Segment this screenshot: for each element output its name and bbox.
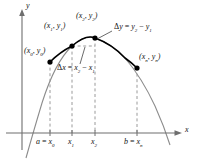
x-axis-label: x xyxy=(185,126,189,134)
point-label-p0: (x0, y0) xyxy=(24,47,45,58)
point-label-p1: (x1, y1) xyxy=(44,22,65,33)
delta-y-annotation: Δy = y2 − y1 xyxy=(114,23,152,34)
point-label-p2: (x2, y2) xyxy=(76,12,97,23)
leader-delta-y xyxy=(97,31,112,39)
x-axis-arrow xyxy=(175,130,183,136)
x-tick-label-x2: x2 xyxy=(91,138,97,149)
x-tick-label-a: a = x0 xyxy=(36,138,55,149)
diagram-canvas xyxy=(0,0,197,160)
data-point-p1 xyxy=(69,43,74,48)
y-axis-label: y xyxy=(26,2,30,10)
x-tick-label-b: b = xn xyxy=(124,138,143,149)
data-point-pn xyxy=(134,65,139,70)
delta-x-annotation: Δx = x2 − x1 xyxy=(57,64,95,75)
point-label-pn: (xn, yn) xyxy=(139,53,160,64)
parabola-diagram: y x (x0, y0) (x1, y1) (x2, y2) (xn, yn) … xyxy=(0,0,197,160)
y-axis-arrow xyxy=(19,9,25,16)
x-tick-label-x1: x1 xyxy=(68,138,74,149)
leader-delta-x xyxy=(80,47,85,64)
data-point-p0 xyxy=(47,59,52,64)
data-point-p2 xyxy=(92,35,97,40)
